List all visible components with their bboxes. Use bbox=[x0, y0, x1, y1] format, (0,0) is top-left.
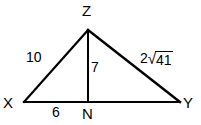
measure-altitude-zn: 7 bbox=[91, 60, 99, 74]
vertex-label-x: X bbox=[3, 95, 13, 110]
measure-side-zy: 2 √ 41 bbox=[140, 50, 173, 67]
radical-radicand: 41 bbox=[155, 51, 173, 67]
radical-expression: 2 √ 41 bbox=[140, 51, 173, 67]
measure-side-xz: 10 bbox=[26, 50, 42, 64]
vertex-label-n: N bbox=[82, 106, 93, 121]
measure-segment-xn: 6 bbox=[52, 105, 60, 119]
side-xz-line bbox=[24, 30, 88, 102]
vertex-label-z: Z bbox=[82, 3, 91, 18]
triangle-diagram: X Y Z N 10 7 6 2 √ 41 bbox=[0, 0, 201, 125]
radical-coefficient: 2 bbox=[140, 51, 148, 65]
vertex-label-y: Y bbox=[183, 95, 193, 110]
